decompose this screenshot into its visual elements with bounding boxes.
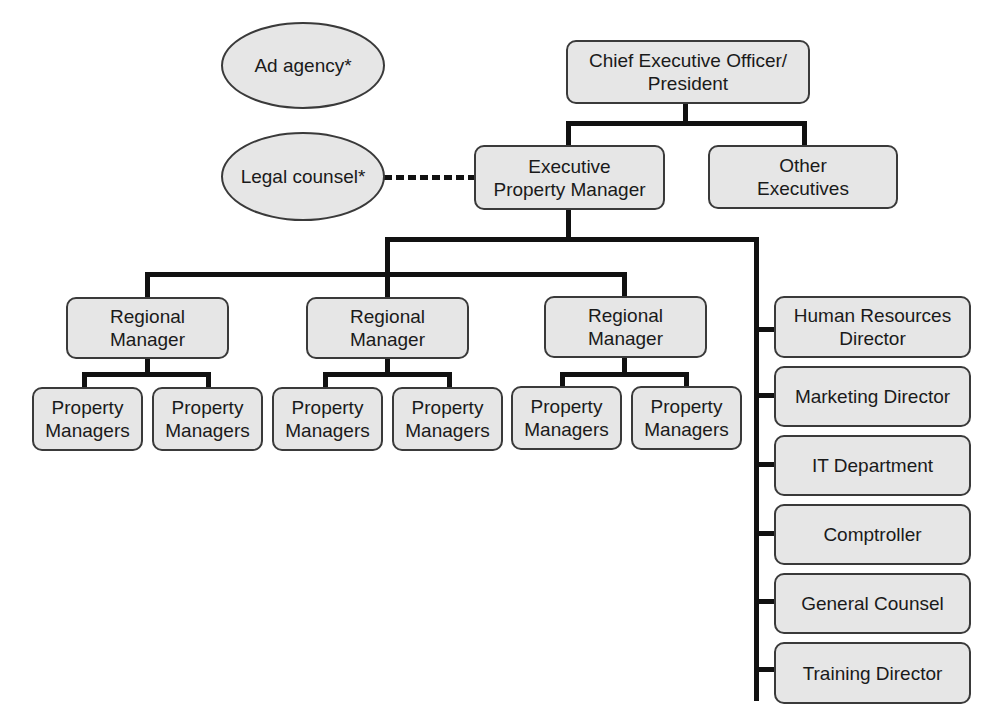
- node-comptroller: Comptroller: [774, 504, 971, 565]
- node-regional-manager: Regional Manager: [66, 297, 229, 359]
- connector-rm1-left: [82, 372, 87, 388]
- connector-dept-2: [754, 393, 776, 398]
- node-property-managers: Property Managers: [392, 387, 503, 451]
- node-property-managers: Property Managers: [32, 387, 143, 451]
- node-label: Chief Executive Officer/ President: [589, 49, 787, 95]
- node-label: Property Managers: [285, 396, 370, 442]
- node-label: Regional Manager: [350, 305, 425, 351]
- connector-dept-3: [754, 462, 776, 467]
- node-property-managers: Property Managers: [511, 386, 622, 450]
- node-label: Regional Manager: [110, 305, 185, 351]
- node-label: Comptroller: [823, 523, 921, 546]
- node-property-managers: Property Managers: [272, 387, 383, 451]
- node-label: IT Department: [812, 454, 933, 477]
- node-marketing-director: Marketing Director: [774, 366, 971, 427]
- node-property-managers: Property Managers: [631, 386, 742, 450]
- node-label: Executive Property Manager: [493, 155, 645, 201]
- node-ceo: Chief Executive Officer/ President: [566, 40, 810, 104]
- connector-regional-horizontal: [145, 272, 627, 277]
- connector-ceo-horizontal: [566, 121, 807, 126]
- connector-to-regional-1: [145, 272, 150, 298]
- node-legal-counsel: Legal counsel*: [221, 132, 385, 221]
- connector-rm2-horizontal: [323, 372, 452, 377]
- node-human-resources-director: Human Resources Director: [774, 296, 971, 358]
- node-label: General Counsel: [801, 592, 944, 615]
- node-label: Training Director: [803, 662, 943, 685]
- connector-rm1-right: [206, 372, 211, 388]
- node-label: Ad agency*: [254, 55, 351, 77]
- node-it-department: IT Department: [774, 435, 971, 496]
- node-training-director: Training Director: [774, 642, 971, 704]
- node-label: Other Executives: [757, 154, 849, 200]
- node-label: Property Managers: [644, 395, 729, 441]
- node-executive-property-manager: Executive Property Manager: [474, 145, 665, 210]
- org-chart: Ad agency* Legal counsel* Chief Executiv…: [0, 0, 1000, 725]
- connector-to-other-execs: [802, 121, 807, 146]
- node-label: Property Managers: [405, 396, 490, 442]
- node-label: Regional Manager: [588, 304, 663, 350]
- node-ad-agency: Ad agency*: [221, 22, 385, 109]
- connector-rm1-horizontal: [82, 372, 211, 377]
- connector-legal-dashed: [384, 175, 476, 180]
- connector-rm2-left: [323, 372, 328, 388]
- connector-dept-1: [754, 327, 776, 332]
- node-general-counsel: General Counsel: [774, 573, 971, 634]
- connector-rm2-right: [447, 372, 452, 388]
- node-property-managers: Property Managers: [152, 387, 263, 451]
- node-label: Marketing Director: [795, 385, 950, 408]
- node-other-executives: Other Executives: [708, 145, 898, 209]
- node-label: Legal counsel*: [241, 166, 366, 188]
- connector-rm3-horizontal: [560, 372, 689, 377]
- connector-to-regional-3: [622, 272, 627, 298]
- node-regional-manager: Regional Manager: [544, 296, 707, 358]
- connector-dept-6: [754, 667, 776, 672]
- connector-departments-vertical: [754, 237, 759, 701]
- node-label: Property Managers: [524, 395, 609, 441]
- node-label: Human Resources Director: [794, 304, 951, 350]
- node-label: Property Managers: [45, 396, 130, 442]
- connector-to-epm: [566, 121, 571, 146]
- connector-dept-5: [754, 599, 776, 604]
- node-label: Property Managers: [165, 396, 250, 442]
- connector-dept-4: [754, 531, 776, 536]
- connector-epm-horizontal: [385, 237, 759, 242]
- node-regional-manager: Regional Manager: [306, 297, 469, 359]
- connector-to-regional-bar: [385, 237, 390, 297]
